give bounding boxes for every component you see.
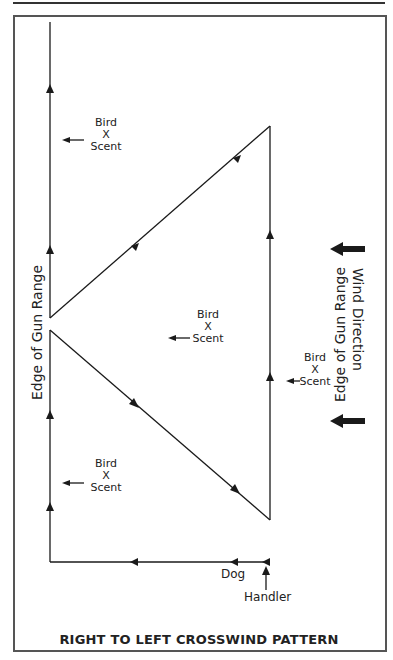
wind-arrow-icon	[330, 414, 365, 428]
scent-marker-center: Bird X Scent	[188, 309, 228, 345]
path-upper-diagonal	[50, 126, 270, 318]
scent-marker-right: Bird X Scent	[295, 352, 335, 388]
scent-label: Scent	[86, 482, 126, 494]
dog-label: Dog	[221, 568, 245, 580]
handler-label: Handler	[244, 591, 291, 603]
scent-marker-bottom-left: Bird X Scent	[86, 458, 126, 494]
scent-label: Scent	[86, 141, 126, 153]
direction-arrowheads	[46, 84, 294, 575]
wind-direction-label: Wind Direction	[350, 268, 366, 371]
left-edge-label: Edge of Gun Range	[29, 265, 45, 400]
wind-arrow-icon	[330, 242, 365, 256]
scent-marker-top-left: Bird X Scent	[86, 117, 126, 153]
right-edge-label: Edge of Gun Range	[332, 267, 348, 402]
scent-label: Scent	[295, 376, 335, 388]
scent-label: Scent	[188, 333, 228, 345]
diagram-title: RIGHT TO LEFT CROSSWIND PATTERN	[13, 632, 385, 647]
